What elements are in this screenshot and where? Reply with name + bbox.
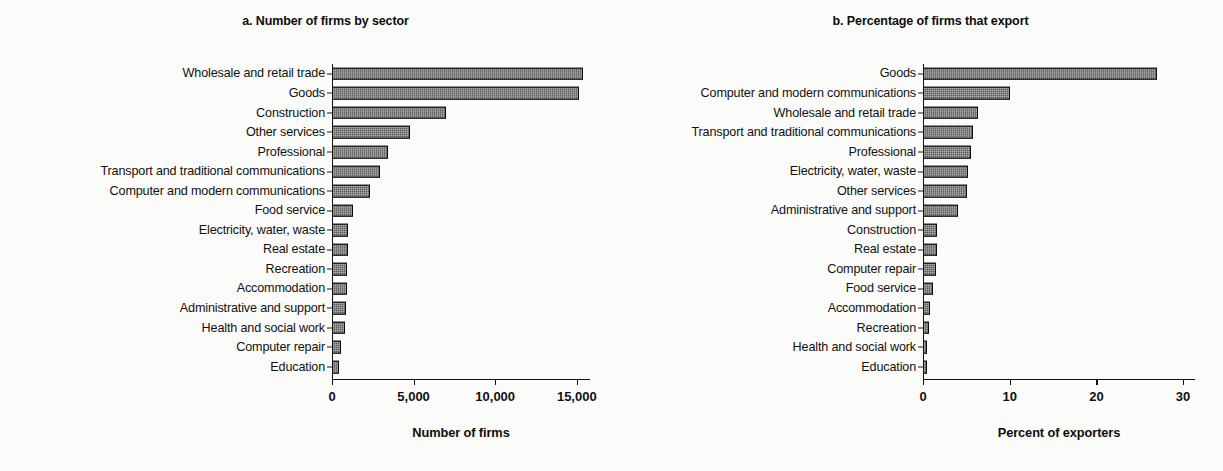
- bar: [332, 204, 353, 217]
- bar: [923, 67, 1157, 80]
- x-axis-tickmark: [1096, 380, 1097, 385]
- bar: [923, 243, 937, 256]
- category-label: Administrative and support: [771, 204, 923, 217]
- bar: [332, 282, 347, 295]
- bar: [923, 263, 936, 276]
- category-label: Food service: [255, 204, 332, 217]
- bar: [332, 87, 579, 100]
- panel-a-plot-area: Wholesale and retail tradeGoodsConstruct…: [0, 0, 611, 471]
- panel-b-y-axis: [923, 64, 924, 379]
- x-axis-tickmark: [577, 380, 578, 385]
- category-label: Wholesale and retail trade: [774, 107, 923, 120]
- panel-b-x-axis-title: Percent of exporters: [998, 425, 1120, 440]
- panel-b-plot-area: GoodsComputer and modern communicationsW…: [611, 0, 1222, 471]
- x-axis-tick-label: 0: [919, 389, 926, 404]
- category-label: Accommodation: [828, 302, 923, 315]
- panel-b-percentage-exporting: b. Percentage of firms that export Goods…: [611, 0, 1222, 471]
- bar: [923, 282, 933, 295]
- x-axis-tickmark: [923, 380, 924, 385]
- x-axis-tick-label: 30: [1176, 389, 1190, 404]
- category-label: Administrative and support: [180, 302, 332, 315]
- category-label: Professional: [848, 146, 923, 159]
- x-axis-tickmark: [1183, 380, 1184, 385]
- panel-a-number-of-firms: a. Number of firms by sector Wholesale a…: [0, 0, 611, 471]
- bar: [923, 107, 978, 120]
- category-label: Health and social work: [793, 341, 923, 354]
- category-label: Computer and modern communications: [701, 87, 923, 100]
- category-label: Food service: [846, 282, 923, 295]
- category-label: Real estate: [263, 243, 332, 256]
- x-axis-tick-label: 10: [1002, 389, 1016, 404]
- bar: [332, 126, 410, 139]
- bar: [332, 302, 346, 315]
- category-label: Transport and traditional communications: [100, 165, 332, 178]
- bar: [332, 224, 348, 237]
- category-label: Professional: [257, 146, 332, 159]
- x-axis-tick-label: 10,000: [475, 389, 515, 404]
- category-label: Education: [861, 361, 923, 374]
- x-axis-tickmark: [1010, 380, 1011, 385]
- bar: [332, 67, 583, 80]
- category-label: Accommodation: [237, 282, 332, 295]
- bar: [923, 87, 1010, 100]
- category-label: Computer repair: [827, 263, 923, 276]
- bar: [923, 126, 973, 139]
- category-label: Goods: [880, 67, 923, 80]
- bar: [923, 185, 967, 198]
- bar: [332, 243, 348, 256]
- x-axis-tick-label: 15,000: [557, 389, 597, 404]
- category-label: Health and social work: [202, 322, 332, 335]
- two-panel-bar-chart-figure: a. Number of firms by sector Wholesale a…: [0, 0, 1223, 471]
- x-axis-tick-label: 5,000: [397, 389, 430, 404]
- bar: [923, 204, 958, 217]
- bar: [332, 322, 345, 335]
- panel-b-x-axis: [923, 379, 1195, 380]
- category-label: Recreation: [266, 263, 332, 276]
- category-label: Electricity, water, waste: [199, 224, 332, 237]
- bar: [923, 165, 968, 178]
- category-label: Construction: [847, 224, 923, 237]
- category-label: Real estate: [854, 243, 923, 256]
- bar: [923, 146, 971, 159]
- category-label: Recreation: [857, 322, 923, 335]
- category-label: Transport and traditional communications: [691, 126, 923, 139]
- x-axis-tickmark: [414, 380, 415, 385]
- category-label: Construction: [256, 107, 332, 120]
- x-axis-tickmark: [332, 380, 333, 385]
- bar: [332, 263, 347, 276]
- category-label: Goods: [289, 87, 332, 100]
- category-label: Other services: [837, 185, 923, 198]
- x-axis-tick-label: 0: [328, 389, 335, 404]
- category-label: Education: [270, 361, 332, 374]
- category-label: Other services: [246, 126, 332, 139]
- x-axis-tickmark: [495, 380, 496, 385]
- category-label: Computer and modern communications: [110, 185, 332, 198]
- panel-a-y-axis: [332, 64, 333, 379]
- bar: [332, 107, 446, 120]
- bar: [332, 165, 380, 178]
- category-label: Electricity, water, waste: [790, 165, 923, 178]
- category-label: Wholesale and retail trade: [183, 67, 332, 80]
- bar: [923, 224, 937, 237]
- category-label: Computer repair: [236, 341, 332, 354]
- x-axis-tick-label: 20: [1089, 389, 1103, 404]
- panel-a-x-axis-title: Number of firms: [412, 425, 509, 440]
- bar: [332, 146, 388, 159]
- bar: [332, 185, 370, 198]
- panel-a-x-axis: [332, 379, 590, 380]
